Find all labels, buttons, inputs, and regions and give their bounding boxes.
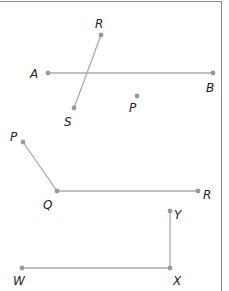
- point-label-s: S: [64, 115, 72, 129]
- point-label-q: Q: [43, 198, 52, 212]
- figure-fig3: YXW: [13, 208, 183, 288]
- point-label-b: B: [206, 81, 214, 95]
- point-label-r: R: [203, 188, 211, 202]
- point-label-p: P: [129, 101, 137, 115]
- point-s: [72, 106, 77, 111]
- point-p: [135, 94, 140, 99]
- point-label-a: A: [29, 67, 38, 81]
- figure-fig1: RABSP: [29, 17, 215, 129]
- point-label-p: P: [10, 130, 18, 144]
- segment-rs: [74, 35, 101, 108]
- point-q: [55, 189, 60, 194]
- point-r: [196, 189, 201, 194]
- point-w: [20, 266, 25, 271]
- figure-fig2: PQR: [10, 130, 211, 212]
- point-a: [46, 71, 51, 76]
- point-b: [211, 71, 216, 76]
- point-p: [21, 140, 26, 145]
- figures-group: RABSPPQRYXW: [10, 17, 215, 288]
- point-label-y: Y: [174, 208, 183, 222]
- point-label-w: W: [13, 274, 26, 288]
- point-label-x: X: [172, 274, 182, 288]
- point-y: [168, 209, 173, 214]
- point-label-r: R: [95, 17, 103, 31]
- point-x: [168, 266, 173, 271]
- point-r: [99, 33, 104, 38]
- geometry-diagram: RABSPPQRYXW: [0, 0, 229, 291]
- segment-pq: [23, 142, 57, 191]
